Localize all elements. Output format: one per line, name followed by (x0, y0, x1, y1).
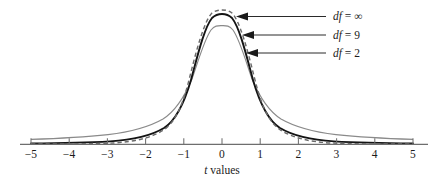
legend-leader-lines (245, 17, 326, 54)
x-axis-label-text: values (207, 164, 239, 176)
t-distribution-figure: −5 −4 −3 −2 −1 0 1 2 3 4 5 df = ∞ df = 9… (0, 0, 444, 188)
tick-label-1: 1 (257, 148, 263, 160)
legend-df-symbol-infinity: df (333, 10, 342, 22)
legend-label-df-9: df = 9 (333, 29, 360, 41)
legend-df-symbol-9: df (333, 29, 342, 41)
tick-label-neg3: −3 (101, 148, 114, 160)
tick-label-2: 2 (295, 148, 301, 160)
tick-label-neg5: −5 (25, 148, 38, 160)
tick-label-neg4: −4 (63, 148, 76, 160)
tick-label-0: 0 (219, 148, 225, 160)
legend-df-symbol-2: df (333, 47, 342, 59)
x-axis-label: t values (204, 164, 239, 176)
legend-value-9: 9 (354, 29, 360, 41)
tick-label-neg1: −1 (177, 148, 190, 160)
legend-equals-9: = (342, 29, 354, 41)
tick-label-neg2: −2 (139, 148, 152, 160)
legend-label-df-2: df = 2 (333, 47, 360, 59)
tick-label-3: 3 (334, 148, 340, 160)
arrowhead-df-infinity (236, 13, 248, 21)
legend-value-infinity: ∞ (354, 10, 362, 22)
tick-label-4: 4 (372, 148, 378, 160)
curve-df-2 (31, 26, 413, 140)
legend-equals-2: = (342, 47, 354, 59)
legend-equals-infinity: = (342, 10, 354, 22)
legend-value-2: 2 (354, 47, 360, 59)
tick-label-5: 5 (410, 148, 416, 160)
legend-label-df-infinity: df = ∞ (333, 10, 362, 22)
